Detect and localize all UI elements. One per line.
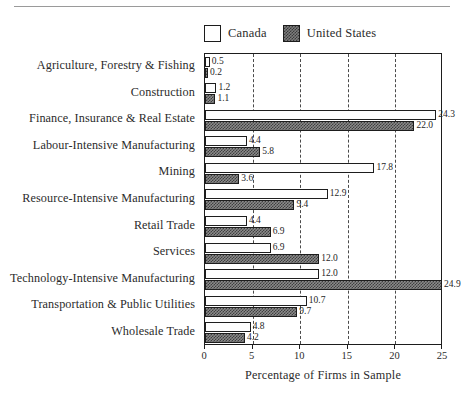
legend-label-united-states: United States	[307, 26, 377, 41]
bar-row: 1.21.1	[205, 81, 441, 108]
open-square-icon	[204, 25, 221, 42]
bar-canada	[205, 216, 247, 226]
bar-row: 0.50.2	[205, 54, 441, 81]
category-label: Construction	[131, 86, 195, 99]
bar-united-states	[205, 333, 245, 343]
x-tick-label: 20	[389, 350, 400, 361]
bar-value-label: 3.6	[239, 174, 253, 184]
bar-line: 9.4	[205, 200, 441, 210]
x-axis: 0510152025	[204, 345, 442, 365]
bar-value-label: 24.3	[436, 110, 455, 120]
category-label: Agriculture, Forestry & Fishing	[37, 60, 195, 73]
chart-legend: Canada United States	[204, 22, 460, 44]
bar-canada	[205, 322, 251, 332]
category-label: Mining	[159, 166, 196, 179]
x-axis-title: Percentage of Firms in Sample	[204, 368, 442, 383]
bar-row: 6.912.0	[205, 240, 441, 267]
x-tick-label: 10	[294, 350, 305, 361]
bar-line: 1.2	[205, 83, 441, 93]
bar-value-label: 9.4	[294, 201, 308, 211]
bar-row: 17.83.6	[205, 160, 441, 187]
bar-line: 3.6	[205, 174, 441, 184]
bar-line: 17.8	[205, 163, 441, 173]
bar-value-label: 6.9	[271, 243, 285, 253]
x-tick-mark	[204, 345, 205, 349]
bar-united-states	[205, 200, 294, 210]
bar-line: 4.2	[205, 333, 441, 343]
x-tick-mark	[394, 345, 395, 349]
chart-plot-area: 0.50.21.21.124.322.04.45.817.83.612.99.4…	[204, 53, 442, 345]
bar-value-label: 0.5	[210, 57, 224, 67]
legend-item-canada: Canada	[204, 25, 267, 42]
bar-line: 1.1	[205, 94, 441, 104]
bar-value-label: 6.9	[271, 227, 285, 237]
bar-row: 4.84.2	[205, 319, 441, 346]
bar-value-label: 1.2	[216, 84, 230, 94]
bar-canada	[205, 269, 319, 279]
legend-label-canada: Canada	[228, 26, 267, 41]
bar-value-label: 5.8	[260, 148, 274, 158]
bar-united-states	[205, 121, 414, 131]
bar-value-label: 22.0	[414, 121, 433, 131]
bar-united-states	[205, 94, 215, 104]
category-axis-labels: Agriculture, Forestry & FishingConstruct…	[0, 53, 200, 345]
bar-canada	[205, 243, 271, 253]
bar-value-label: 12.9	[328, 190, 347, 200]
bar-row: 10.79.7	[205, 293, 441, 320]
bar-value-label: 12.0	[319, 254, 338, 264]
x-tick-mark	[299, 345, 300, 349]
bar-line: 0.2	[205, 68, 441, 78]
x-tick-mark	[252, 345, 253, 349]
bar-row: 24.322.0	[205, 107, 441, 134]
category-label: Finance, Insurance & Real Estate	[29, 113, 195, 126]
bar-value-label: 10.7	[307, 296, 326, 306]
bar-canada	[205, 83, 216, 93]
bar-value-label: 4.2	[245, 333, 259, 343]
bar-line: 4.8	[205, 322, 441, 332]
bar-value-label: 4.4	[247, 216, 261, 226]
bar-line: 6.9	[205, 243, 441, 253]
bar-united-states	[205, 307, 297, 317]
bar-line: 12.0	[205, 254, 441, 264]
x-tick-label: 25	[437, 350, 448, 361]
legend-item-united-states: United States	[283, 25, 377, 42]
bar-line: 4.4	[205, 216, 441, 226]
bar-value-label: 4.4	[247, 137, 261, 147]
bar-canada	[205, 110, 436, 120]
bar-row: 12.024.9	[205, 266, 441, 293]
category-label: Wholesale Trade	[111, 325, 195, 338]
category-label: Resource-Intensive Manufacturing	[22, 192, 195, 205]
page-top-rule	[14, 6, 450, 7]
bar-line: 10.7	[205, 296, 441, 306]
bar-canada	[205, 296, 307, 306]
bar-value-label: 9.7	[297, 307, 311, 317]
bar-united-states	[205, 280, 442, 290]
bar-canada	[205, 136, 247, 146]
x-tick-label: 0	[201, 350, 206, 361]
bar-value-label: 24.9	[442, 280, 461, 290]
bar-row: 4.46.9	[205, 213, 441, 240]
bar-line: 4.4	[205, 136, 441, 146]
x-tick-label: 5	[249, 350, 254, 361]
bar-line: 24.3	[205, 110, 441, 120]
bar-value-label: 17.8	[374, 163, 393, 173]
bar-line: 9.7	[205, 307, 441, 317]
bar-rows: 0.50.21.21.124.322.04.45.817.83.612.99.4…	[205, 54, 441, 344]
bar-united-states	[205, 254, 319, 264]
category-label: Transportation & Public Utilities	[31, 298, 195, 311]
bar-line: 6.9	[205, 227, 441, 237]
bar-line: 12.0	[205, 269, 441, 279]
hatched-square-icon	[283, 25, 300, 42]
bar-line: 24.9	[205, 280, 441, 290]
bar-united-states	[205, 227, 271, 237]
bar-value-label: 0.2	[208, 68, 222, 78]
bar-row: 12.99.4	[205, 187, 441, 214]
bar-united-states	[205, 147, 260, 157]
category-label: Retail Trade	[134, 219, 195, 232]
x-tick-mark	[347, 345, 348, 349]
bar-value-label: 1.1	[215, 95, 229, 105]
bar-line: 12.9	[205, 189, 441, 199]
bar-value-label: 12.0	[319, 269, 338, 279]
bar-united-states	[205, 174, 239, 184]
category-label: Labour-Intensive Manufacturing	[33, 139, 195, 152]
